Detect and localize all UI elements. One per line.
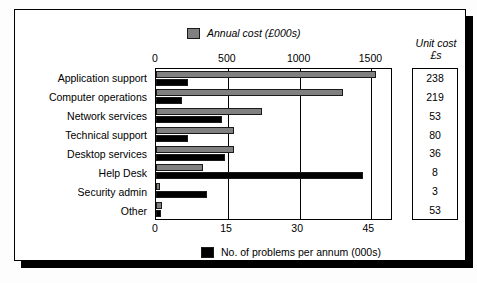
gray-square-swatch-icon — [187, 28, 200, 39]
bar-row — [156, 144, 391, 163]
plot-area — [155, 68, 392, 220]
bar-row — [156, 88, 391, 107]
unit-cost-header-line1: Unit cost — [405, 37, 467, 49]
top-axis-ticks: 050010001500 — [155, 52, 392, 66]
bar-problems — [156, 191, 207, 198]
unit-cost-table: 2382195380368353 — [412, 68, 458, 220]
legend-problems: No. of problems per annum (000s) — [201, 246, 381, 258]
bar-row — [156, 163, 391, 182]
category-label: Computer operations — [27, 87, 151, 106]
unit-cost-value: 8 — [413, 163, 457, 182]
top-axis-tick-label: 1500 — [359, 52, 382, 64]
category-label: Application support — [27, 68, 151, 87]
bar-annual-cost — [156, 202, 162, 209]
bar-row — [156, 125, 391, 144]
bar-problems — [156, 135, 188, 142]
category-axis-labels: Application supportComputer operationsNe… — [27, 68, 151, 220]
screenshot-root: Annual cost (£000s) 050010001500 Applica… — [0, 0, 477, 283]
legend-annual-cost: Annual cost (£000s) — [187, 27, 300, 39]
bar-row — [156, 107, 391, 126]
legend-annual-cost-label: Annual cost (£000s) — [207, 27, 300, 39]
bar-problems — [156, 154, 225, 161]
unit-cost-value: 80 — [413, 125, 457, 144]
bar-annual-cost — [156, 108, 262, 115]
unit-cost-value: 3 — [413, 182, 457, 201]
bottom-axis-tick-label: 45 — [362, 222, 374, 234]
bar-annual-cost — [156, 89, 343, 96]
bar-problems — [156, 172, 363, 179]
unit-cost-value: 53 — [413, 200, 457, 219]
bar-problems — [156, 79, 188, 86]
top-axis-tick-label: 1000 — [287, 52, 310, 64]
bar-row — [156, 182, 391, 201]
category-label: Help Desk — [27, 163, 151, 182]
bottom-axis-tick-label: 0 — [152, 222, 158, 234]
unit-cost-header: Unit cost £s — [405, 37, 467, 61]
bar-row — [156, 69, 391, 88]
bottom-axis-tick-label: 30 — [291, 222, 303, 234]
bar-annual-cost — [156, 71, 376, 78]
black-square-swatch-icon — [201, 247, 214, 258]
unit-cost-value: 219 — [413, 88, 457, 107]
category-label: Other — [27, 201, 151, 220]
bar-problems — [156, 116, 222, 123]
unit-cost-value: 238 — [413, 69, 457, 88]
bar-annual-cost — [156, 183, 160, 190]
category-label: Technical support — [27, 125, 151, 144]
bottom-axis-ticks: 0153045 — [155, 222, 392, 236]
category-label: Security admin — [27, 182, 151, 201]
category-label: Network services — [27, 106, 151, 125]
unit-cost-header-line2: £s — [405, 49, 467, 61]
bar-row — [156, 200, 391, 219]
bar-annual-cost — [156, 146, 234, 153]
bar-problems — [156, 97, 182, 104]
bar-annual-cost — [156, 164, 203, 171]
legend-problems-label: No. of problems per annum (000s) — [221, 246, 381, 258]
top-axis-tick-label: 500 — [218, 52, 236, 64]
bar-problems — [156, 210, 161, 217]
category-label: Desktop services — [27, 144, 151, 163]
unit-cost-value: 53 — [413, 107, 457, 126]
bar-rows — [156, 69, 391, 219]
bar-annual-cost — [156, 127, 234, 134]
top-axis-tick-label: 0 — [152, 52, 158, 64]
unit-cost-value: 36 — [413, 144, 457, 163]
chart-card: Annual cost (£000s) 050010001500 Applica… — [14, 9, 466, 261]
bottom-axis-tick-label: 15 — [220, 222, 232, 234]
